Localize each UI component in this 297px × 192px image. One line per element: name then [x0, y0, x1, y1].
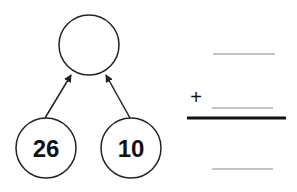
number-bond-diagram: 26 10 + [0, 0, 297, 192]
plus-sign: + [190, 86, 202, 108]
part-left-value: 26 [33, 135, 60, 162]
part-right-value: 10 [118, 135, 145, 162]
arrow-right [106, 75, 130, 118]
arrow-left [45, 75, 71, 118]
whole-circle[interactable] [59, 15, 119, 75]
